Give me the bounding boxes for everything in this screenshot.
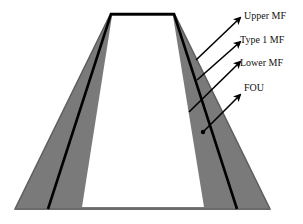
label-lower-mf: Lower MF bbox=[240, 57, 283, 68]
fuzzy-mf-diagram: Upper MF Type 1 MF Lower MF FOU bbox=[0, 0, 303, 224]
fou-dot bbox=[201, 130, 205, 134]
label-type1-mf: Type 1 MF bbox=[240, 34, 285, 45]
upper-mf-arrow bbox=[196, 18, 240, 60]
type1-mf-arrow bbox=[197, 42, 240, 80]
label-upper-mf: Upper MF bbox=[244, 10, 286, 21]
label-fou: FOU bbox=[244, 82, 265, 93]
